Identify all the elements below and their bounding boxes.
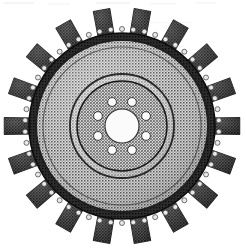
- rim-stud: [23, 129, 28, 134]
- rim-stud: [27, 96, 32, 101]
- rim-stud: [120, 221, 125, 226]
- hub-bolt-hole: [108, 146, 117, 155]
- hub-bolt-hole: [94, 112, 103, 121]
- rim-stud: [57, 198, 62, 203]
- rotor-figure: Black and white halftone scan of a radia…: [0, 0, 246, 252]
- rim-stud: [131, 27, 136, 32]
- rim-stud: [57, 49, 62, 54]
- rim-stud: [86, 32, 91, 37]
- rim-stud: [153, 32, 158, 37]
- rim-stud: [27, 151, 32, 156]
- rim-stud: [24, 140, 29, 145]
- hub-bolt-hole: [142, 132, 151, 141]
- rim-stud: [197, 66, 202, 71]
- rim-stud: [49, 190, 54, 195]
- rim-stud: [30, 85, 35, 90]
- rim-stud: [49, 57, 54, 62]
- rim-stud: [66, 42, 71, 47]
- rim-stud: [163, 37, 168, 42]
- rim-stud: [97, 218, 102, 223]
- rim-stud: [182, 198, 187, 203]
- rim-stud: [86, 215, 91, 220]
- rim-stud: [120, 27, 125, 32]
- rim-stud: [66, 205, 71, 210]
- rim-stud: [131, 220, 136, 225]
- rim-stud: [30, 162, 35, 167]
- rim-stud: [97, 29, 102, 34]
- rim-stud: [42, 66, 47, 71]
- rim-stud: [204, 75, 209, 80]
- rim-stud: [204, 172, 209, 177]
- rim-stud: [212, 151, 217, 156]
- rim-stud: [215, 140, 220, 145]
- rim-stud: [209, 85, 214, 90]
- rim-stud: [24, 107, 29, 112]
- rim-stud: [173, 42, 178, 47]
- rim-stud: [36, 172, 41, 177]
- rim-stud: [209, 162, 214, 167]
- rim-stud: [182, 49, 187, 54]
- rim-stud: [216, 118, 221, 123]
- rim-stud: [108, 220, 113, 225]
- hub-bolt-hole: [128, 98, 137, 107]
- center-bore: [105, 109, 139, 143]
- rim-stud: [216, 129, 221, 134]
- rim-stud: [76, 210, 81, 215]
- rim-stud: [197, 181, 202, 186]
- rim-stud: [142, 218, 147, 223]
- rim-stud: [190, 190, 195, 195]
- rim-stud: [163, 210, 168, 215]
- rim-stud: [173, 205, 178, 210]
- hub-bolt-hole: [108, 98, 117, 107]
- hub-bolt-hole: [128, 146, 137, 155]
- rim-stud: [190, 57, 195, 62]
- rim-stud: [215, 107, 220, 112]
- rim-stud: [153, 215, 158, 220]
- rim-stud: [42, 181, 47, 186]
- hub-bolt-hole: [142, 112, 151, 121]
- rim-stud: [142, 29, 147, 34]
- rim-stud: [108, 27, 113, 32]
- hub-bolt-hole: [94, 132, 103, 141]
- rim-stud: [76, 37, 81, 42]
- rim-stud: [23, 118, 28, 123]
- rim-stud: [36, 75, 41, 80]
- rotor-illustration: [0, 0, 246, 252]
- rim-stud: [212, 96, 217, 101]
